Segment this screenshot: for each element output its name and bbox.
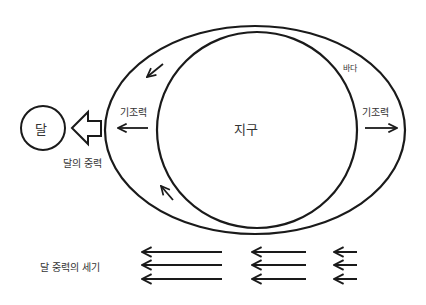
ocean-label: 바다 xyxy=(343,62,357,73)
gravity-strength-arrows-strong xyxy=(142,252,222,279)
moon-label: 달 xyxy=(35,119,47,138)
gravity-strength-arrows-medium xyxy=(252,252,306,279)
upper-flow-arrow-icon xyxy=(147,64,163,77)
earth-label: 지구 xyxy=(234,119,258,138)
moon-gravity-arrow-icon xyxy=(72,112,101,144)
gravity-strength-arrows-weak xyxy=(334,252,357,279)
lower-flow-arrow-icon xyxy=(161,186,173,200)
tide-force-right-label: 기조력 xyxy=(362,104,389,119)
gravity-strength-label: 달 중력의 세기 xyxy=(40,259,100,274)
moon-gravity-label: 달의 중력 xyxy=(63,155,102,170)
tide-force-left-label: 기조력 xyxy=(120,104,147,119)
